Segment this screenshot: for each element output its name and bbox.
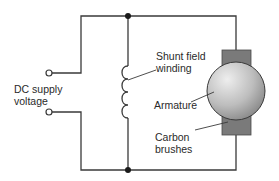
leader-shunt <box>128 70 156 80</box>
label-shunt-field: Shunt field winding <box>156 50 206 74</box>
wire-supply-bottom <box>52 112 236 170</box>
shunt-field-winding-coil <box>122 66 128 118</box>
supply-terminal-top <box>46 70 52 76</box>
armature-rotor <box>207 62 265 120</box>
label-carbon-brushes: Carbon brushes <box>155 131 192 155</box>
label-dc-supply: DC supply voltage <box>14 83 62 107</box>
label-armature-text: Armature <box>154 99 197 111</box>
label-carbon-brushes-line2: brushes <box>155 143 192 155</box>
label-dc-supply-line2: voltage <box>14 95 62 107</box>
dc-shunt-motor-diagram: DC supply voltage Shunt field winding Ar… <box>0 0 279 181</box>
label-shunt-field-line1: Shunt field <box>156 50 206 62</box>
wire-supply-top <box>52 16 236 73</box>
label-armature: Armature <box>154 99 197 111</box>
junction-top-dot <box>125 13 131 19</box>
label-shunt-field-line2: winding <box>156 62 206 74</box>
label-carbon-brushes-line1: Carbon <box>155 131 192 143</box>
supply-terminal-bottom <box>46 109 52 115</box>
label-dc-supply-line1: DC supply <box>14 83 62 95</box>
junction-bottom-dot <box>125 167 131 173</box>
